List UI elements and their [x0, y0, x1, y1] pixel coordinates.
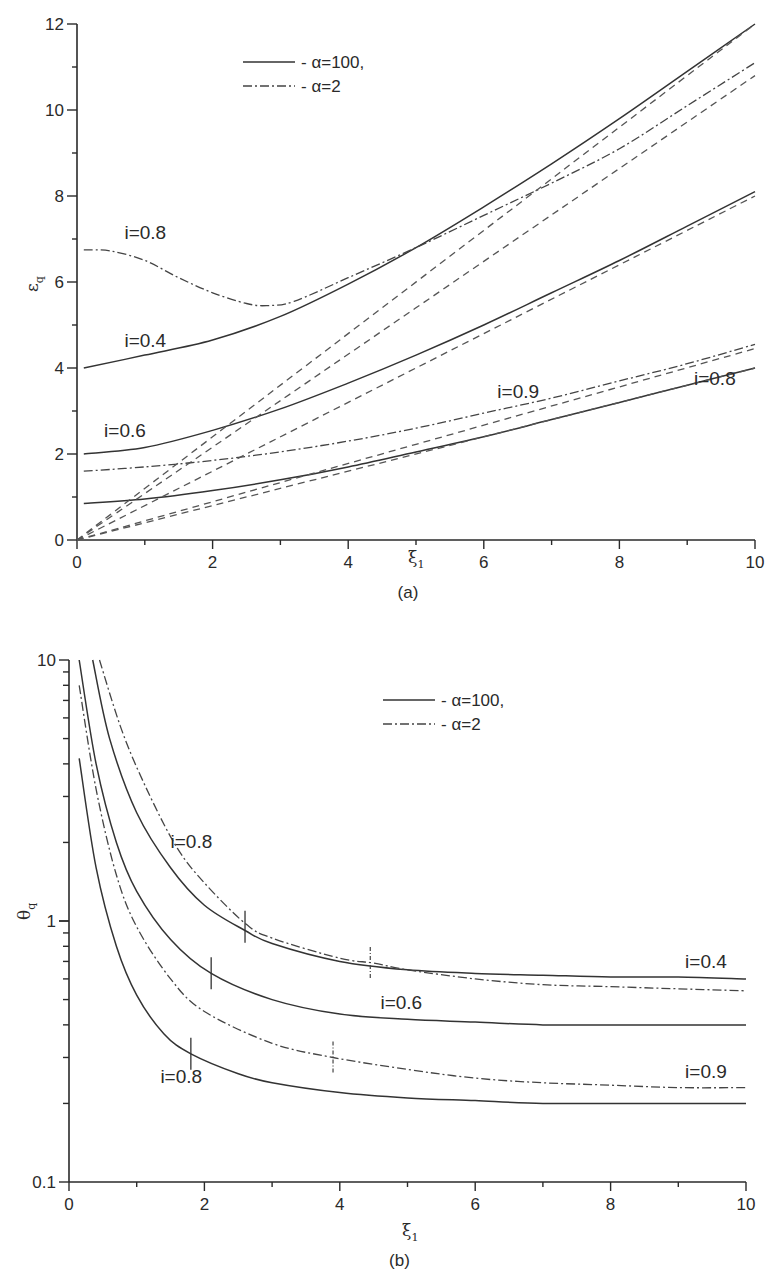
y-tick-label: 10	[45, 101, 64, 120]
x-tick-label: 2	[208, 553, 217, 572]
x-tick-label: 4	[335, 1195, 344, 1214]
legend-label: - α=100,	[301, 53, 364, 72]
y-tick-label: 1	[47, 912, 56, 931]
data-series	[77, 24, 755, 540]
data-series	[84, 368, 755, 503]
x-tick-label: 6	[470, 1195, 479, 1214]
curve-annotation: i=0.8	[694, 368, 736, 389]
data-series	[84, 63, 755, 306]
data-series	[84, 192, 755, 454]
curve-annotation: i=0.6	[380, 992, 422, 1013]
x-axis-label: ξ1	[408, 547, 424, 571]
legend: - α=100,- α=2	[383, 691, 504, 734]
curve-annotation: i=0.8	[160, 1066, 202, 1087]
x-tick-label: 10	[746, 553, 765, 572]
data-series	[79, 758, 746, 1103]
curve-annotation: i=0.4	[685, 951, 727, 972]
chart-panel-a: 0246810024681012ξ1εqi=0.8i=0.4i=0.6i=0.9…	[22, 15, 764, 602]
x-tick-label: 0	[72, 553, 81, 572]
legend-label: - α=100,	[441, 691, 504, 710]
y-axis-label: θq	[14, 903, 38, 920]
x-tick-label: 2	[200, 1195, 209, 1214]
x-axis-label: ξ1	[402, 1220, 418, 1244]
y-tick-label: 4	[55, 359, 64, 378]
chart-panel-b: 02468100.1110ξ1θqi=0.8i=0.4i=0.6i=0.9i=0…	[14, 651, 755, 1270]
x-tick-label: 4	[343, 553, 352, 572]
y-tick-label: 10	[37, 651, 56, 670]
x-tick-label: 8	[606, 1195, 615, 1214]
figure: 0246810024681012ξ1εqi=0.8i=0.4i=0.6i=0.9…	[0, 0, 773, 1286]
y-tick-label: 0.1	[32, 1173, 56, 1192]
curve-annotation: i=0.6	[104, 420, 146, 441]
y-tick-label: 2	[55, 445, 64, 464]
data-series	[100, 660, 747, 991]
x-tick-label: 10	[737, 1195, 756, 1214]
y-axis-label: εq	[22, 276, 46, 292]
curve-annotation: i=0.8	[124, 222, 166, 243]
x-tick-label: 6	[479, 553, 488, 572]
curve-annotation: i=0.9	[685, 1061, 727, 1082]
data-series	[77, 76, 755, 540]
curve-annotation: i=0.8	[171, 831, 213, 852]
curve-annotation: i=0.9	[497, 381, 539, 402]
data-series	[79, 685, 746, 1087]
y-tick-label: 6	[55, 273, 64, 292]
y-tick-label: 0	[55, 531, 64, 550]
y-tick-label: 12	[45, 15, 64, 34]
x-tick-label: 0	[64, 1195, 73, 1214]
curve-annotation: i=0.4	[124, 330, 166, 351]
panel-caption: (a)	[398, 583, 419, 602]
legend: - α=100,- α=2	[243, 53, 364, 96]
data-series	[93, 660, 746, 979]
y-tick-label: 8	[55, 187, 64, 206]
data-series	[84, 344, 755, 471]
legend-label: - α=2	[301, 77, 341, 96]
data-series	[84, 24, 755, 368]
legend-label: - α=2	[441, 715, 481, 734]
data-series	[77, 349, 755, 540]
data-series	[77, 368, 755, 540]
x-tick-label: 8	[615, 553, 624, 572]
panel-caption: (b)	[389, 1251, 410, 1270]
